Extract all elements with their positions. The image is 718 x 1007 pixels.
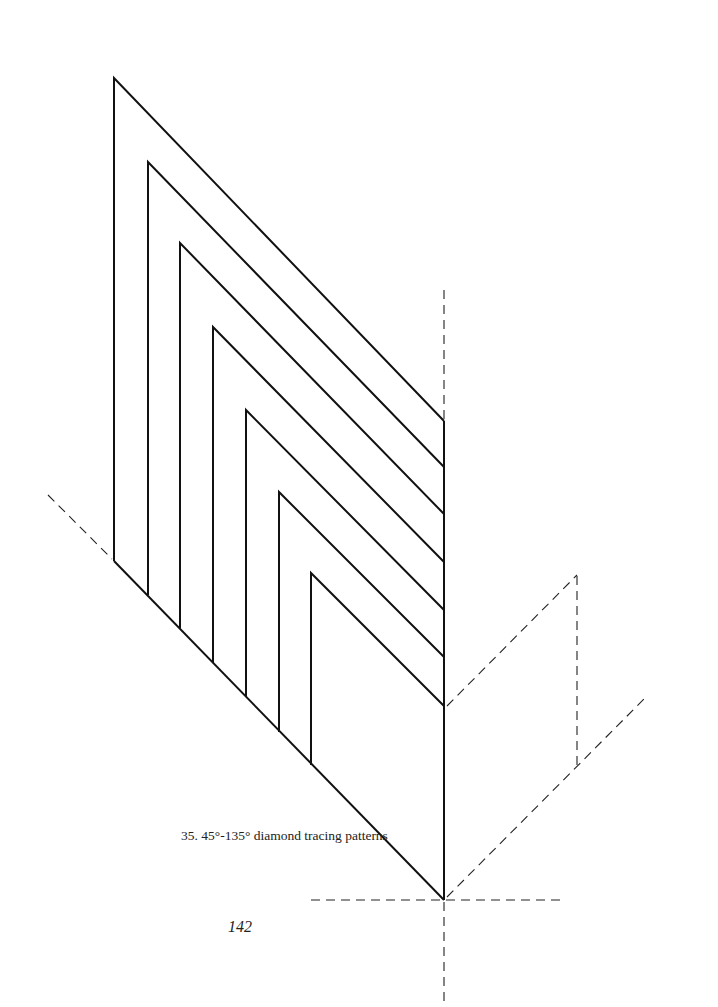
- page-number: 142: [228, 918, 252, 936]
- guide-left-diagonal: [48, 495, 112, 559]
- diamond-tracing-diagram: [0, 0, 718, 1007]
- chevron-1: [114, 78, 444, 561]
- chevron-2: [148, 162, 444, 595]
- guide-upper-diagonal: [447, 575, 577, 706]
- chevron-7: [311, 573, 444, 765]
- solid-outline: [114, 78, 444, 900]
- figure-caption: 35. 45°-135° diamond tracing patterns: [181, 828, 388, 844]
- guide-right-diagonal: [447, 695, 648, 897]
- dashed-guide-lines: [48, 290, 648, 1007]
- chevron-4: [213, 327, 444, 663]
- chevron-5: [246, 410, 444, 697]
